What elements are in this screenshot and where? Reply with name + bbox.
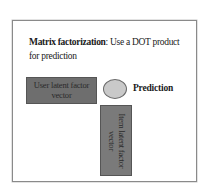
prediction-circle-icon <box>103 79 127 99</box>
prediction-label: Prediction <box>133 83 173 93</box>
user-latent-factor-vector: User latent factor vector <box>26 77 97 104</box>
item-latent-factor-vector: Item latent factor vector <box>100 105 132 176</box>
diagram-title: Matrix factorization: Use a DOT product … <box>29 35 189 63</box>
title-bold: Matrix factorization <box>29 37 106 47</box>
item-vector-label: Item latent factor vector <box>107 107 126 175</box>
user-vector-label: User latent factor vector <box>27 81 96 100</box>
